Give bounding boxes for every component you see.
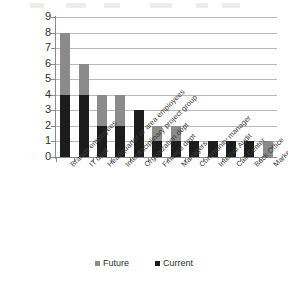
y-axis-line: [55, 16, 56, 159]
bar-segment-current: [60, 95, 70, 157]
y-axis-tick-label: 3: [37, 104, 51, 115]
gridline: [56, 95, 277, 96]
y-axis-tick-mark: [51, 157, 55, 158]
y-axis-tick-label: 9: [37, 11, 51, 22]
legend-item-current[interactable]: Current: [155, 258, 193, 268]
bar-segment-future: [60, 33, 70, 95]
y-axis-tick-label: 5: [37, 73, 51, 84]
y-axis-tick-mark: [51, 33, 55, 34]
bar-branch-employees: [60, 33, 70, 157]
bar-chart: 0123456789 Branch employeesIT deptHeadqu…: [0, 0, 288, 290]
gridline: [56, 79, 277, 80]
gridline: [56, 17, 277, 18]
legend-swatch-icon: [155, 261, 160, 266]
y-axis-tick-mark: [51, 126, 55, 127]
legend-swatch-icon: [95, 261, 100, 266]
y-axis-tick-mark: [51, 79, 55, 80]
y-axis-tick-label: 2: [37, 120, 51, 131]
gridline: [56, 33, 277, 34]
y-axis-tick-label: 8: [37, 27, 51, 38]
legend-item-future[interactable]: Future: [95, 258, 129, 268]
y-axis-tick-mark: [51, 110, 55, 111]
y-axis-tick-mark: [51, 48, 55, 49]
legend-label: Current: [163, 258, 193, 268]
y-axis-tick-mark: [51, 95, 55, 96]
y-axis-tick-label: 4: [37, 89, 51, 100]
gridline: [56, 48, 277, 49]
y-axis-tick-label: 6: [37, 58, 51, 69]
y-axis-tick-mark: [51, 141, 55, 142]
legend-label: Future: [103, 258, 129, 268]
bar-segment-future: [79, 64, 89, 95]
x-axis-category-labels: Branch employeesIT deptHeadquarter or ar…: [0, 160, 288, 252]
bar-segment-future: [97, 95, 107, 126]
gridline: [56, 64, 277, 65]
y-axis-tick-label: 7: [37, 42, 51, 53]
y-axis-tick-mark: [51, 17, 55, 18]
bar-segment-future: [115, 95, 125, 126]
chart-legend: FutureCurrent: [0, 256, 288, 270]
y-axis-tick-label: 1: [37, 135, 51, 146]
y-axis-tick-mark: [51, 64, 55, 65]
